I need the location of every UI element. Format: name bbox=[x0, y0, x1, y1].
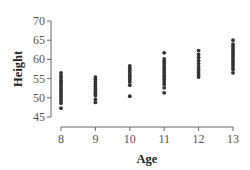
y-tick-label: 45 bbox=[33, 110, 45, 124]
x-axis-title: Age bbox=[137, 152, 158, 166]
y-tick-label: 60 bbox=[33, 52, 45, 66]
data-point bbox=[162, 51, 166, 55]
data-point bbox=[59, 101, 63, 105]
x-tick-label: 9 bbox=[92, 132, 98, 146]
data-point bbox=[162, 86, 166, 90]
x-tick-label: 12 bbox=[193, 132, 205, 146]
x-tick-label: 10 bbox=[124, 132, 136, 146]
data-point bbox=[128, 83, 132, 87]
x-axis: 8910111213 bbox=[58, 127, 239, 146]
y-tick-label: 50 bbox=[33, 91, 45, 105]
data-point bbox=[94, 101, 98, 105]
data-point bbox=[231, 67, 235, 71]
y-tick-label: 55 bbox=[33, 72, 45, 86]
x-tick-label: 11 bbox=[158, 132, 170, 146]
scatter-chart: 455055606570 8910111213 Height Age bbox=[0, 0, 250, 170]
data-points bbox=[59, 38, 235, 110]
y-axis: 455055606570 bbox=[33, 14, 51, 124]
y-tick-label: 65 bbox=[33, 33, 45, 47]
data-point bbox=[162, 91, 166, 95]
y-tick-label: 70 bbox=[33, 14, 45, 28]
data-point bbox=[162, 82, 166, 86]
data-point bbox=[197, 49, 201, 53]
data-point bbox=[197, 75, 201, 79]
data-point bbox=[94, 94, 98, 98]
data-point bbox=[231, 71, 235, 75]
data-point bbox=[128, 94, 132, 98]
data-point bbox=[231, 38, 235, 42]
data-point bbox=[59, 106, 63, 110]
x-tick-label: 8 bbox=[58, 132, 64, 146]
x-tick-label: 13 bbox=[227, 132, 239, 146]
y-axis-title: Height bbox=[11, 50, 25, 87]
